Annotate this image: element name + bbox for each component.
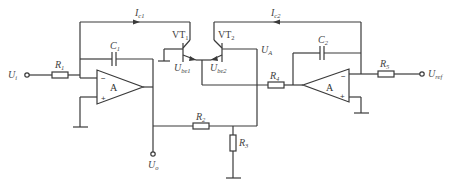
schematic-canvas: − + A (0, 0, 449, 189)
transistor-vt1 (183, 40, 196, 62)
label-output: Uo (148, 159, 159, 171)
reference-terminal (420, 72, 424, 76)
opamp2-label: A (326, 82, 334, 93)
current-arrow-ic2 (273, 20, 280, 25)
opamp1-label: A (110, 82, 118, 93)
label-r1: R1 (54, 59, 64, 71)
label-r2: R2 (195, 111, 206, 123)
transistor-vt2 (211, 40, 222, 62)
output-terminal (151, 152, 155, 156)
opamp1-plus-sign: + (101, 94, 106, 103)
resistor-r5 (378, 71, 394, 77)
opamp2-plus-sign: + (340, 92, 345, 101)
label-ic2: Ic2 (270, 7, 281, 19)
label-input: Ui (8, 69, 17, 81)
label-reference: Uref (428, 68, 443, 80)
label-c2: C2 (318, 34, 329, 46)
label-ic1: Ic1 (134, 7, 144, 19)
label-c1: C1 (110, 40, 120, 52)
capacitor-c1 (112, 52, 116, 66)
capacitor-c2 (320, 46, 324, 60)
label-ua: UA (261, 44, 272, 56)
label-ube1: Ube1 (174, 62, 191, 74)
label-vt1: VT1 (172, 29, 189, 41)
label-vt2: VT2 (218, 29, 235, 41)
label-r3: R3 (238, 137, 249, 149)
opamp-2: − + A (303, 69, 349, 102)
opamp1-minus-sign: − (101, 74, 106, 83)
resistor-r4 (268, 82, 284, 88)
resistor-r3 (230, 135, 236, 151)
input-terminal (25, 73, 29, 77)
label-ube2: Ube2 (210, 62, 227, 74)
resistor-r1 (52, 72, 68, 78)
label-r4: R4 (269, 70, 280, 82)
resistor-r2 (193, 123, 209, 129)
opamp-1: − + A (97, 70, 143, 104)
opamp2-minus-sign: − (341, 72, 346, 81)
current-arrow-ic1 (133, 20, 140, 25)
circuit-diagram: − + A (0, 0, 449, 189)
label-r5: R5 (379, 58, 390, 70)
